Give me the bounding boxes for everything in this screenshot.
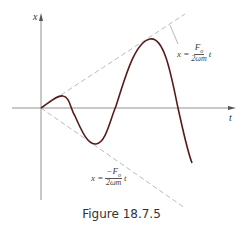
upper-envelope-line [41, 14, 185, 108]
y-axis-label: x [33, 12, 37, 22]
figure-caption: Figure 18.7.5 [0, 207, 243, 221]
response-curve [41, 39, 192, 163]
y-axis-arrow-icon [39, 13, 43, 21]
figure-canvas [0, 0, 243, 233]
lower-envelope-label: x = −Fo 2ωm t [91, 167, 126, 188]
x-axis-arrow-icon [228, 106, 236, 110]
x-axis-label: t [229, 113, 232, 123]
lower-envelope-line [41, 108, 185, 208]
label-leader-line [170, 25, 178, 44]
upper-envelope-label: x = Fo 2ωm t [177, 43, 211, 64]
